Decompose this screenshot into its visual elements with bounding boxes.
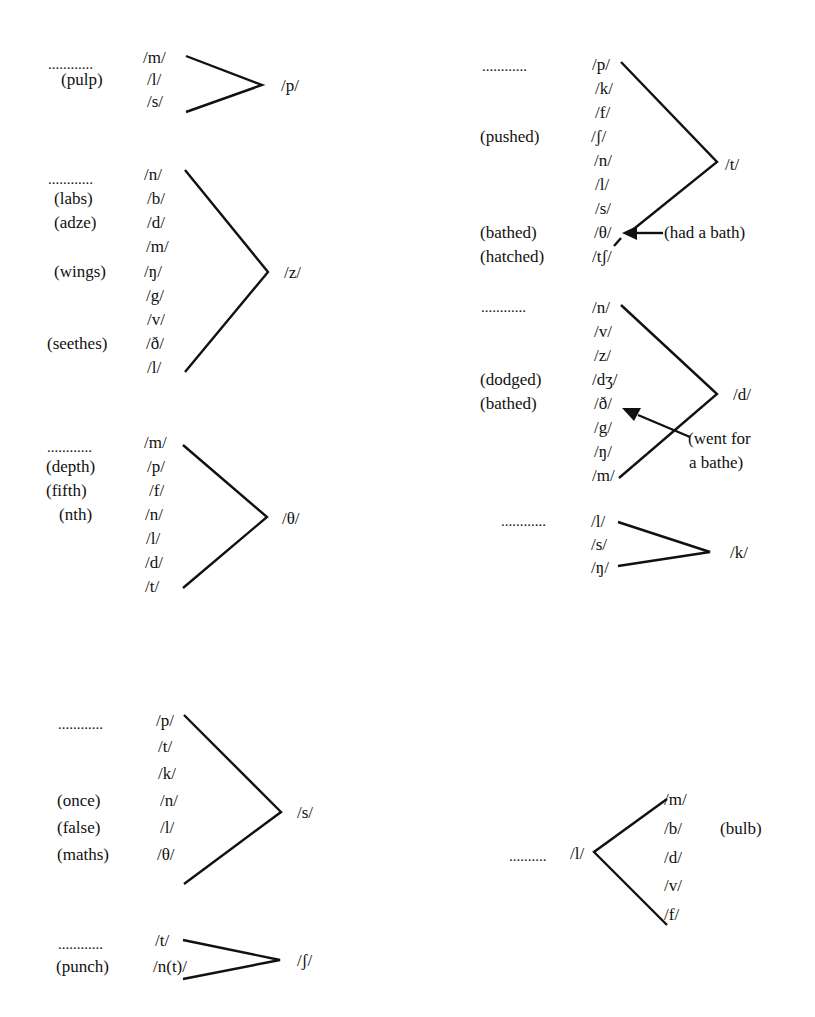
annotation-had-a-bath: (had a bath): [664, 224, 745, 241]
had-a-bath-arrowhead: [622, 226, 637, 240]
phoneme: /t/: [155, 932, 169, 949]
example-word: (bathed): [480, 224, 537, 241]
example-word: (bathed): [480, 395, 537, 412]
example-word: (hatched): [480, 248, 544, 265]
example-word: (dodged): [480, 371, 541, 388]
phoneme: /v/: [147, 311, 165, 328]
phoneme: /dʒ/: [592, 371, 618, 388]
leader-dots: ............: [501, 514, 546, 529]
phoneme: /k/: [158, 765, 176, 782]
phoneme: /ŋ/: [591, 559, 609, 576]
target-phoneme: /z/: [284, 264, 301, 281]
phoneme: /b/: [147, 190, 165, 207]
phoneme: /n/: [145, 506, 163, 523]
phoneme: /ʃ/: [591, 128, 606, 145]
example-word: (nth): [59, 506, 92, 523]
target-phoneme: /t/: [725, 156, 739, 173]
phoneme: /n/: [160, 792, 178, 809]
annotation-went-for: (went for: [688, 430, 751, 447]
z-cluster-bracket: [185, 170, 268, 372]
phoneme: /n/: [592, 299, 610, 316]
phoneme: /v/: [664, 877, 682, 894]
target-phoneme: /d/: [733, 386, 751, 403]
k-cluster-bracket: [618, 522, 710, 566]
went-for-a-bathe-arrow-line: [638, 415, 690, 437]
phoneme: /l/: [146, 530, 160, 547]
example-word: (bulb): [720, 820, 762, 837]
phoneme: /l/: [595, 176, 609, 193]
source-phoneme: /l/: [570, 845, 584, 862]
phoneme: /d/: [147, 214, 165, 231]
p-cluster-bracket: [186, 56, 262, 112]
leader-dots: ............: [58, 717, 103, 732]
example-word: (pushed): [480, 128, 539, 145]
phoneme: /m/: [144, 434, 167, 451]
target-phoneme: /p/: [281, 77, 299, 94]
phoneme: /p/: [592, 56, 610, 73]
phoneme: /d/: [664, 849, 682, 866]
phoneme: /f/: [149, 482, 164, 499]
phoneme: /f/: [595, 104, 610, 121]
phoneme: /g/: [594, 419, 612, 436]
example-word: (false): [57, 819, 100, 836]
connector-lines: [0, 0, 815, 1017]
phoneme: /p/: [147, 458, 165, 475]
phoneme: /t/: [158, 738, 172, 755]
phoneme: /m/: [143, 49, 166, 66]
esh-cluster-bracket: [183, 940, 280, 979]
phoneme: /s/: [591, 536, 607, 553]
theta-cluster-bracket: [183, 445, 267, 588]
s-cluster-bracket: [184, 715, 281, 884]
phoneme: /ð/: [594, 395, 612, 412]
phoneme: /ŋ/: [144, 263, 162, 280]
example-word: (seethes): [47, 335, 107, 352]
phoneme: /z/: [594, 347, 611, 364]
phoneme: /tʃ/: [592, 248, 612, 265]
example-word: (punch): [56, 958, 109, 975]
annotation-a-bathe: a bathe): [689, 454, 743, 471]
example-word: (adze): [54, 214, 96, 231]
leader-dots: ............: [48, 172, 93, 187]
phoneme: /s/: [595, 200, 611, 217]
target-phoneme: /ʃ/: [297, 952, 312, 969]
phoneme: /ð/: [146, 335, 164, 352]
phoneme: /p/: [156, 712, 174, 729]
leader-dots: ............: [58, 937, 103, 952]
target-phoneme: /s/: [297, 804, 313, 821]
went-for-a-bathe-arrowhead: [622, 408, 641, 421]
phoneme: /g/: [146, 287, 164, 304]
phoneme: /n/: [144, 166, 162, 183]
phoneme: /t/: [145, 578, 159, 595]
phoneme: /l/: [147, 359, 161, 376]
target-phoneme: /k/: [730, 544, 748, 561]
phoneme: /θ/: [594, 224, 612, 241]
phoneme: /θ/: [157, 846, 175, 863]
target-phoneme: /θ/: [282, 510, 300, 527]
example-word: (maths): [57, 846, 109, 863]
phoneme: /ŋ/: [594, 443, 612, 460]
phoneme: /b/: [664, 820, 682, 837]
phoneme: /l/: [160, 819, 174, 836]
phoneme: /s/: [147, 93, 163, 110]
leader-dots: ..........: [509, 849, 547, 864]
example-word: (labs): [54, 190, 93, 207]
phoneme: /f/: [664, 906, 679, 923]
phoneme: /n(t)/: [153, 958, 187, 975]
phoneme: /l/: [147, 71, 161, 88]
phoneme: /n/: [594, 152, 612, 169]
t-cluster-tail: [614, 238, 621, 246]
leader-dots: ............: [481, 300, 526, 315]
leader-dots: ............: [482, 59, 527, 74]
leader-dots: ............: [47, 440, 92, 455]
phoneme: /m/: [592, 467, 615, 484]
example-word: (fifth): [46, 482, 87, 499]
phoneme: /m/: [664, 791, 687, 808]
t-cluster-bracket: [621, 62, 717, 232]
example-word: (pulp): [61, 71, 103, 88]
phoneme: /v/: [594, 323, 612, 340]
phoneme: /d/: [145, 554, 163, 571]
phoneme: /k/: [595, 80, 613, 97]
example-word: (depth): [46, 458, 95, 475]
example-word: (once): [57, 792, 100, 809]
phoneme: /l/: [591, 513, 605, 530]
